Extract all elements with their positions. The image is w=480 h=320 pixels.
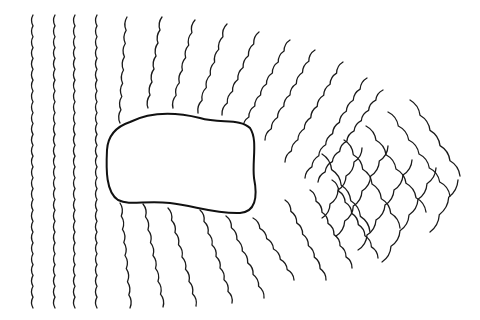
wave-crest-crossing xyxy=(382,168,436,262)
wave-crest-refracted-top xyxy=(285,62,343,162)
wave-crest-crossing xyxy=(366,126,426,212)
wave-crest-refracted-top xyxy=(147,17,162,108)
wave-crest-crossing xyxy=(430,180,458,232)
wave-crest-refracted-top xyxy=(318,90,383,182)
wave-crest-crossing xyxy=(410,100,460,176)
wave-crest-refracted-top xyxy=(243,40,290,128)
wave-crest-refracted-top xyxy=(222,32,259,115)
wave-crest-refracted-bottom xyxy=(200,210,232,303)
wave-crest-refracted-bottom xyxy=(253,218,294,280)
wave-crest-refracted-bottom xyxy=(226,216,264,298)
wave-crest-refracted-bottom xyxy=(143,204,164,307)
wave-crest-refracted-top xyxy=(305,78,367,178)
wave-refraction-diagram xyxy=(0,0,480,320)
wave-crest-refracted-bottom xyxy=(285,200,326,280)
wave-crest-refracted-bottom xyxy=(120,203,131,308)
wave-crest-refracted-top xyxy=(265,50,315,140)
wave-crest-straight xyxy=(74,15,76,308)
island-outline xyxy=(107,114,256,213)
wave-crest-crossing xyxy=(344,140,400,228)
wave-crest-straight xyxy=(32,15,34,308)
wave-crest-refracted-bottom xyxy=(168,208,196,306)
wave-crest-crossing xyxy=(388,112,450,196)
wave-crest-refracted-bottom xyxy=(332,180,378,258)
wave-crest-refracted-top xyxy=(198,24,227,113)
wave-crest-refracted-top xyxy=(173,20,195,108)
wave-crest-straight xyxy=(96,15,98,308)
wave-crest-crossing xyxy=(336,146,388,236)
wave-crest-refracted-top xyxy=(119,17,127,123)
wave-crest-straight xyxy=(54,15,56,308)
